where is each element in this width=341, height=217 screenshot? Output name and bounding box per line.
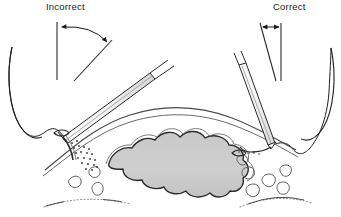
surgical-technique-figure: Incorrect Correct (0, 0, 341, 217)
label-correct: Correct (273, 1, 306, 12)
label-incorrect: Incorrect (46, 1, 85, 12)
figure-canvas: Incorrect Correct (0, 0, 341, 217)
